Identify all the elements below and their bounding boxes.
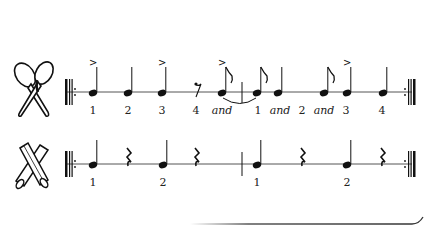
quarter-rest [127, 148, 131, 166]
count-label: and [212, 104, 233, 117]
count-label: 3 [343, 104, 350, 117]
quarter-note [88, 67, 98, 97]
page-edge-rule [190, 217, 423, 224]
quarter-rest [381, 148, 385, 166]
accent-mark: > [158, 57, 166, 68]
claves-icon [15, 143, 50, 190]
quarter-note [123, 67, 133, 97]
count-label: 1 [90, 104, 97, 117]
quarter-rest [195, 148, 199, 166]
claves-count-labels: 1 2 1 2 [90, 176, 351, 189]
count-label: 1 [255, 104, 262, 117]
eighth-note [252, 67, 267, 97]
maracas-icon [10, 59, 57, 117]
eighth-note [217, 67, 232, 97]
count-label: 1 [254, 176, 261, 189]
accent-mark: > [218, 57, 226, 68]
quarter-note [342, 67, 352, 97]
count-label: 4 [379, 104, 386, 117]
eighth-note [319, 67, 334, 97]
count-label: 2 [299, 104, 306, 117]
quarter-note [342, 140, 352, 169]
claves-staff: 1 2 1 2 [65, 140, 416, 189]
quarter-note [378, 67, 388, 97]
quarter-note [252, 140, 262, 169]
accent-mark: > [89, 57, 97, 68]
count-label: 2 [344, 176, 351, 189]
eighth-rest [194, 82, 201, 97]
count-label: 3 [159, 104, 166, 117]
quarter-note [158, 140, 168, 169]
count-label: 1 [90, 176, 97, 189]
maracas-staff: > > > [65, 57, 416, 117]
quarter-rest [301, 148, 305, 166]
count-label: 2 [125, 104, 132, 117]
count-label: and [314, 104, 335, 117]
rhythm-score: > > > [0, 0, 425, 228]
count-label: and [270, 104, 291, 117]
quarter-note [157, 67, 167, 97]
count-label: 4 [193, 104, 200, 117]
maracas-count-labels: 1 2 3 4 and 1 and 2 and 3 4 [90, 104, 386, 117]
count-label: 2 [160, 176, 167, 189]
quarter-note [88, 140, 98, 169]
accent-mark: > [343, 57, 351, 68]
quarter-note [273, 67, 283, 97]
tie [223, 98, 256, 104]
